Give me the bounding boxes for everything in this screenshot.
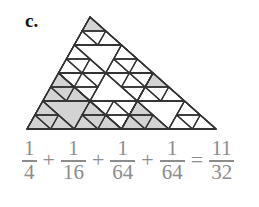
subdivision-lines xyxy=(27,17,216,129)
level3-triangle xyxy=(122,87,146,101)
fraction-term-2: 116 xyxy=(61,139,86,182)
plus-sign: + xyxy=(86,147,110,173)
level3-triangle xyxy=(59,59,83,73)
fraction-term-1: 14 xyxy=(22,139,37,182)
level3-triangle xyxy=(74,73,98,87)
level3-triangle xyxy=(66,45,90,59)
fraction-result: 1132 xyxy=(209,139,234,182)
plus-sign: + xyxy=(37,147,61,173)
level3-triangle xyxy=(106,101,130,115)
level3-triangle xyxy=(74,31,98,45)
level3-triangle xyxy=(122,73,146,87)
level3-triangle xyxy=(66,59,90,73)
equals-sign: = xyxy=(185,147,209,173)
fraction-equation: 14 + 116 + 164 + 164 = 1132 xyxy=(22,139,234,182)
level3-triangle xyxy=(82,31,106,45)
fraction-term-3: 164 xyxy=(110,139,135,182)
level3-triangle xyxy=(177,115,201,129)
level3-triangle xyxy=(145,87,169,101)
level3-triangle xyxy=(114,59,138,73)
fraction-term-4: 164 xyxy=(160,139,185,182)
plus-sign: + xyxy=(135,147,159,173)
